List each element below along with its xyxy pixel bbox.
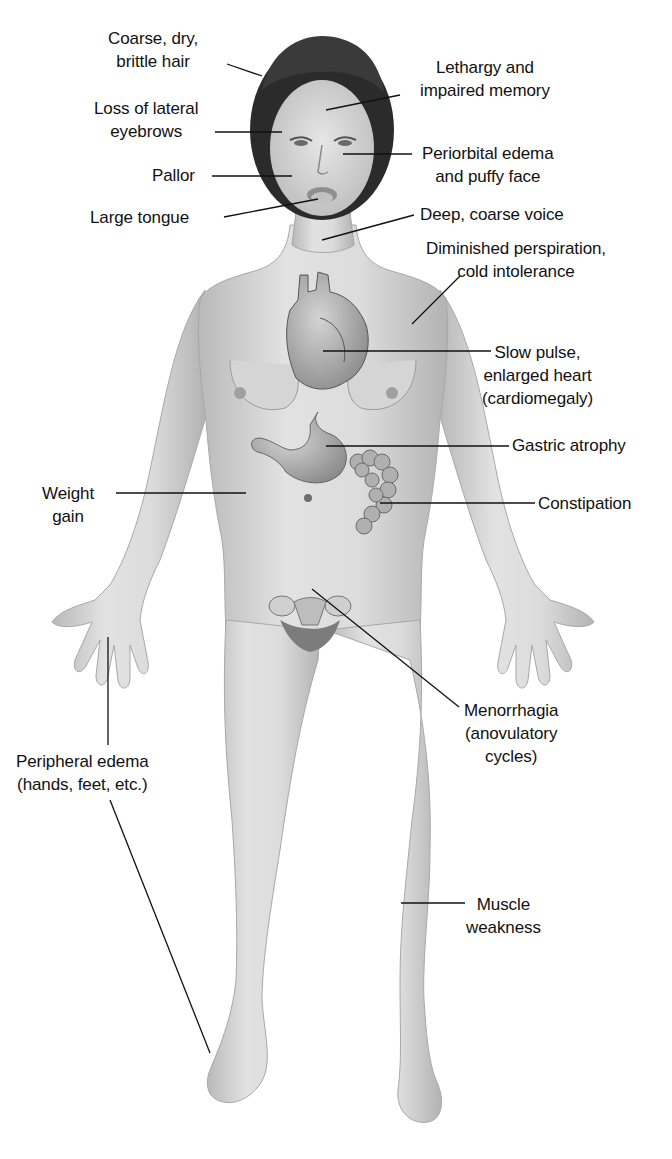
head bbox=[250, 36, 394, 220]
label-lethargy: Lethargy and impaired memory bbox=[420, 56, 550, 102]
label-menorrhagia: Menorrhagia (anovulatory cycles) bbox=[464, 699, 558, 768]
label-tongue: Large tongue bbox=[90, 206, 189, 229]
label-gastric: Gastric atrophy bbox=[512, 434, 626, 457]
label-periorbital: Periorbital edema and puffy face bbox=[422, 142, 554, 188]
label-constipation: Constipation bbox=[538, 492, 631, 515]
label-voice: Deep, coarse voice bbox=[420, 203, 564, 226]
label-eyebrows: Loss of lateral eyebrows bbox=[94, 97, 198, 143]
label-muscle: Muscle weakness bbox=[466, 893, 541, 939]
hypothyroidism-figure bbox=[0, 0, 672, 1159]
label-perspiration: Diminished perspiration, cold intoleranc… bbox=[426, 237, 606, 283]
label-pallor: Pallor bbox=[152, 164, 195, 187]
label-heart: Slow pulse, enlarged heart (cardiomegaly… bbox=[482, 341, 593, 410]
label-weight: Weight gain bbox=[42, 482, 94, 528]
label-peripheral-edema: Peripheral edema (hands, feet, etc.) bbox=[16, 750, 149, 796]
label-hair: Coarse, dry, brittle hair bbox=[108, 27, 198, 73]
